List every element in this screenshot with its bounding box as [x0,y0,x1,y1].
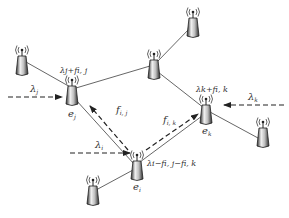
tower-mid [148,50,161,80]
link-mid-top [157,28,190,62]
tower-topleft [16,46,29,76]
label-lambda-i: λi [94,139,103,151]
network-diagram: λj λk λi ej ek ei fi, j fi, k λj+fi, j λ… [0,0,289,218]
link-bottom-ei [96,170,133,190]
label-lambda-j: λj [29,83,38,96]
tower-top [187,8,200,38]
tower-ek [200,95,213,125]
tower-ej [66,76,79,106]
label-ek-load: λk+fi, k [195,85,228,94]
network-links [26,28,258,190]
tower-right [257,118,270,148]
tower-ei [131,151,144,181]
label-ej-load: λj+fi, j [59,66,88,75]
label-ek: ek [202,125,212,137]
label-lambda-k: λk [247,91,258,103]
tower-bottom [87,176,100,206]
flow-arrows [8,97,284,153]
label-f-ij: fi, j [115,104,127,117]
label-ej: ej [68,108,76,121]
label-ei-load: λi−fi, j−fi, k [146,159,196,168]
link-ek-right [210,112,258,138]
label-f-ik: fi, k [162,114,176,126]
label-ei: ei [133,181,141,193]
